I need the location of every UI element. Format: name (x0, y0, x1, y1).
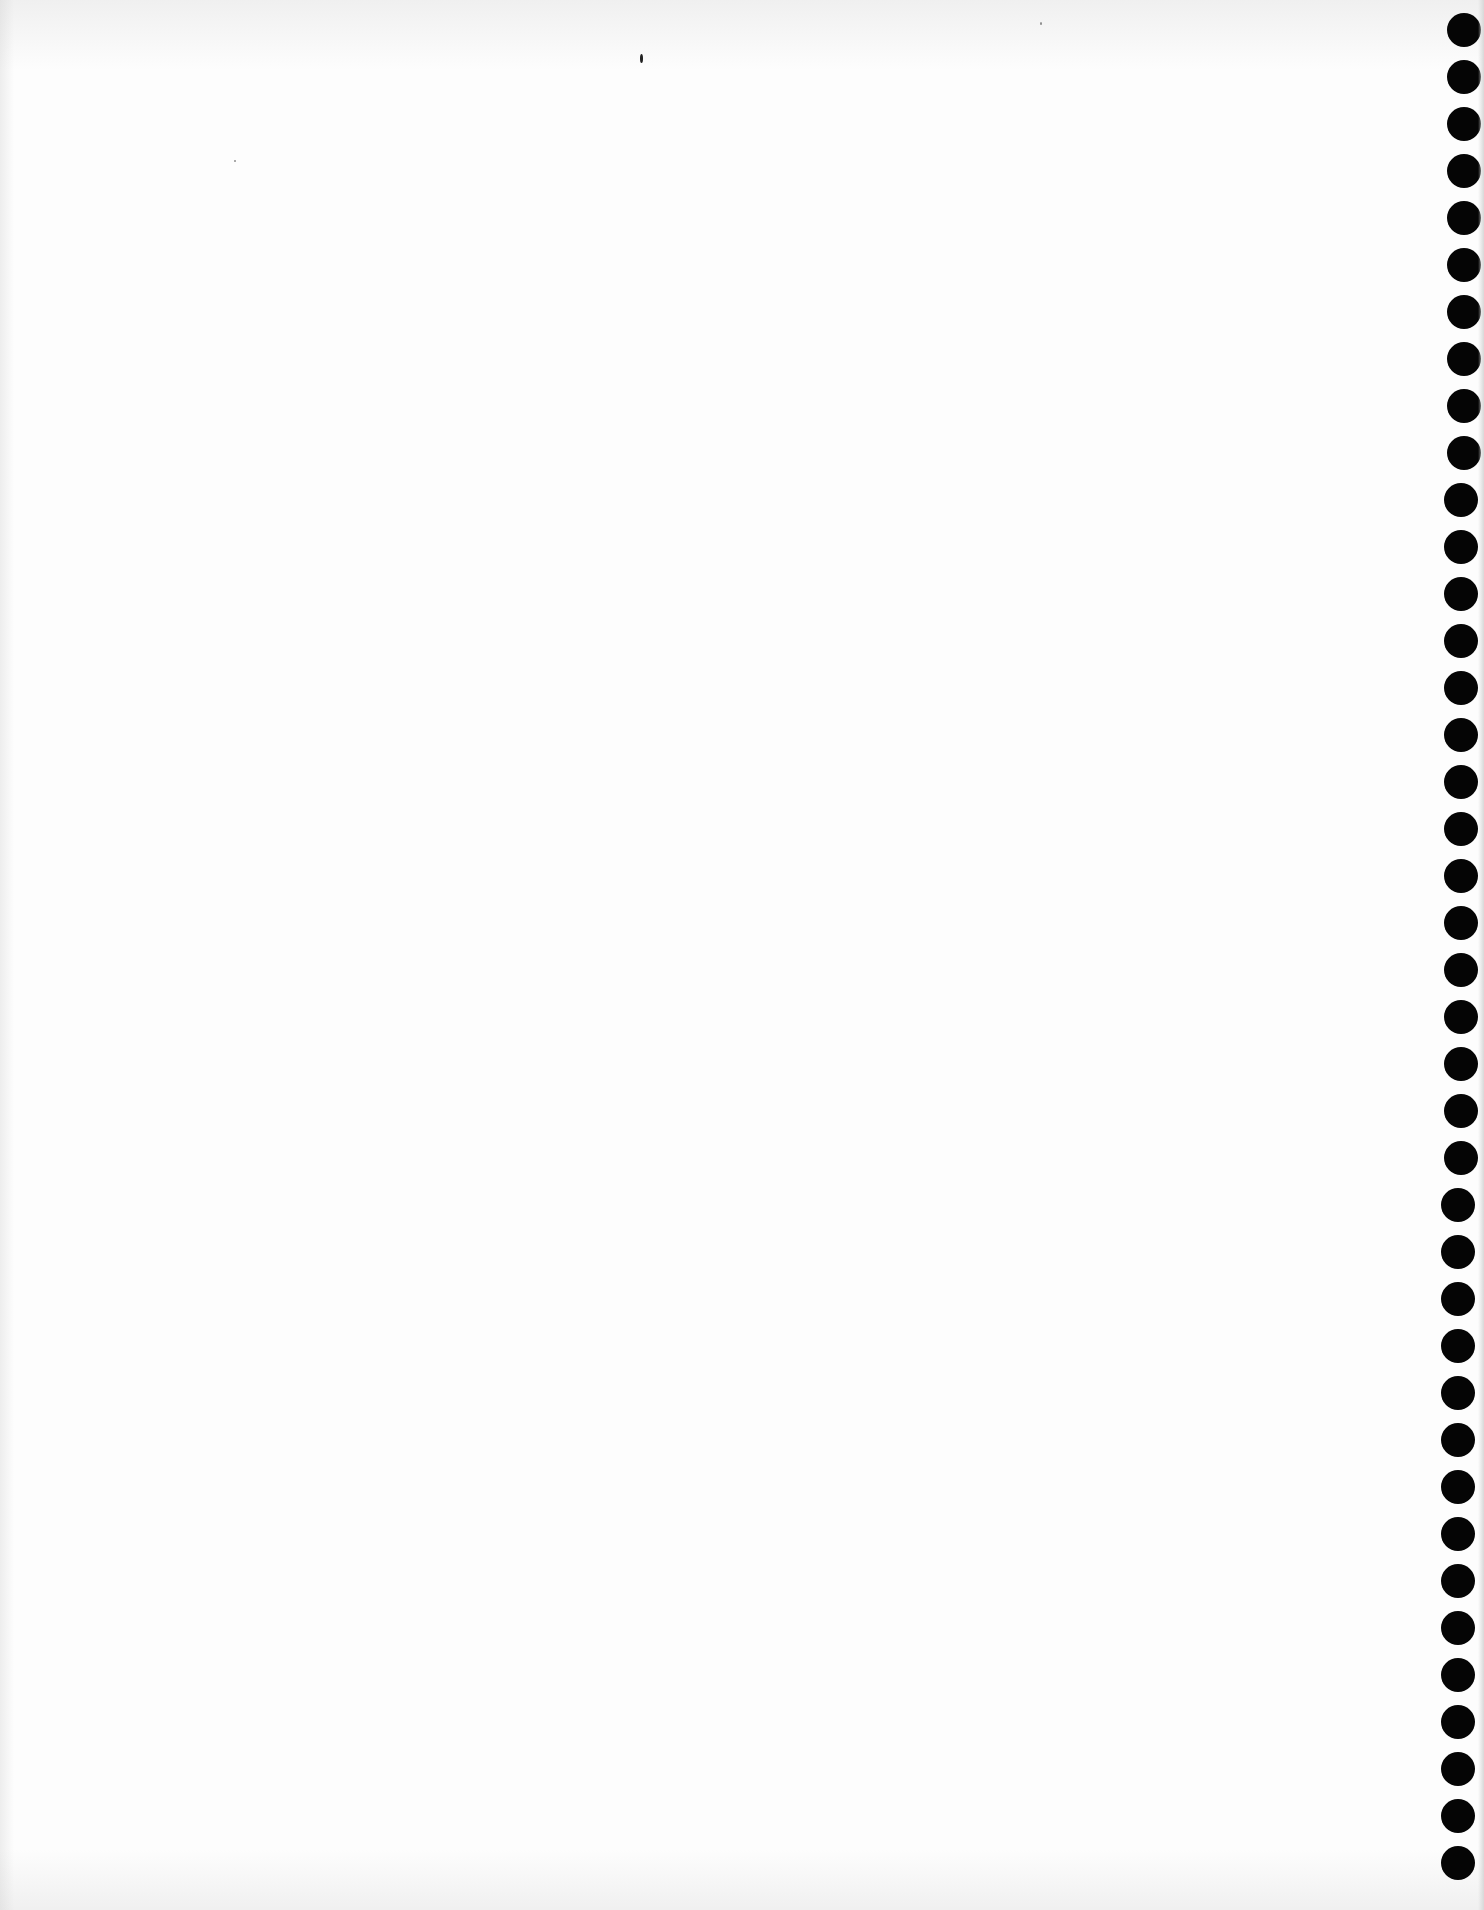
binding-hole (1441, 1517, 1475, 1551)
blank-document-page (0, 0, 1484, 1910)
binding-hole (1444, 624, 1478, 658)
binding-hole (1441, 1188, 1475, 1222)
binding-hole (1441, 1658, 1475, 1692)
binding-hole (1441, 1799, 1475, 1833)
binding-hole (1444, 718, 1478, 752)
binding-hole (1441, 1376, 1475, 1410)
binding-hole (1441, 1235, 1475, 1269)
binding-hole (1444, 530, 1478, 564)
binding-hole (1441, 1846, 1475, 1880)
binding-hole (1447, 342, 1481, 376)
scan-speck (640, 54, 643, 63)
binding-hole (1441, 1611, 1475, 1645)
binding-hole (1447, 154, 1481, 188)
binding-hole (1444, 483, 1478, 517)
binding-hole (1441, 1329, 1475, 1363)
binding-hole (1447, 389, 1481, 423)
binding-hole (1441, 1470, 1475, 1504)
binding-hole (1447, 436, 1481, 470)
binding-hole (1441, 1705, 1475, 1739)
binding-hole (1444, 1141, 1478, 1175)
binding-hole (1447, 295, 1481, 329)
binding-hole (1444, 812, 1478, 846)
binding-hole (1441, 1752, 1475, 1786)
page-edge-shadow (1478, 0, 1484, 1910)
binding-hole (1444, 765, 1478, 799)
binding-hole (1444, 671, 1478, 705)
binding-hole (1441, 1282, 1475, 1316)
binding-hole (1444, 577, 1478, 611)
binding-hole (1444, 1000, 1478, 1034)
binding-hole (1444, 1094, 1478, 1128)
binding-hole (1444, 906, 1478, 940)
binding-hole (1441, 1423, 1475, 1457)
binding-hole (1447, 107, 1481, 141)
binding-hole (1444, 1047, 1478, 1081)
binding-hole (1444, 859, 1478, 893)
binding-hole (1447, 60, 1481, 94)
scan-speck (1040, 22, 1042, 25)
binding-hole (1447, 13, 1481, 47)
binding-hole (1447, 201, 1481, 235)
binding-hole (1447, 248, 1481, 282)
binding-hole (1441, 1564, 1475, 1598)
scan-speck (234, 160, 236, 162)
binding-hole (1444, 953, 1478, 987)
